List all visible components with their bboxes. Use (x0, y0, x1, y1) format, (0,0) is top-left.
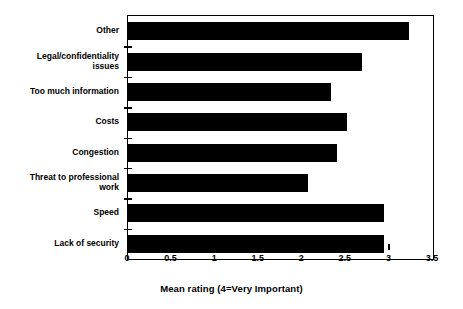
x-axis-tick-label: 0.5 (151, 253, 191, 263)
y-axis-tick-label: Threat to professional work (0, 172, 119, 192)
x-axis-tick-label: 3 (368, 253, 408, 263)
y-axis-tick (124, 168, 132, 169)
bar (128, 22, 409, 40)
bars-layer (128, 16, 433, 259)
x-axis-tick (258, 244, 259, 250)
x-axis-tick-label: 0 (107, 253, 147, 263)
y-axis-tick-label: Other (0, 25, 119, 35)
y-axis-tick-label: Too much information (0, 86, 119, 96)
x-axis-tick-label: 3.5 (412, 253, 452, 263)
y-axis-tick-label: Lack of security (0, 238, 119, 248)
bar (128, 53, 362, 71)
y-axis-tick (124, 107, 132, 108)
y-axis-tick-label: Legal/confidentiality issues (0, 51, 119, 71)
y-axis-category-labels: OtherLegal/confidentiality issuesToo muc… (0, 15, 123, 258)
x-axis-tick (301, 244, 302, 250)
y-axis-tick (124, 229, 132, 230)
x-axis-tick-label: 1 (194, 253, 234, 263)
x-axis-tick (171, 244, 172, 250)
x-axis-tick-label: 2.5 (325, 253, 365, 263)
y-axis-tick (124, 77, 132, 78)
x-axis-tick (388, 244, 389, 250)
x-axis-tick (345, 244, 346, 250)
bar (128, 83, 331, 101)
bar (128, 204, 384, 222)
y-axis-tick-label: Costs (0, 116, 119, 126)
bar (128, 144, 337, 162)
y-axis-tick (124, 46, 132, 47)
bar (128, 174, 308, 192)
y-axis-tick-label: Speed (0, 207, 119, 217)
x-axis-title: Mean rating (4=Very Important) (0, 283, 463, 294)
y-axis-tick-label: Congestion (0, 147, 119, 157)
x-axis-tick-label: 1.5 (238, 253, 278, 263)
plot-area (127, 15, 434, 260)
bar-chart: OtherLegal/confidentiality issuesToo muc… (0, 0, 463, 309)
y-axis-tick (124, 198, 132, 199)
x-axis-tick-label: 2 (281, 253, 321, 263)
bar (128, 113, 347, 131)
y-axis-tick (124, 138, 132, 139)
x-axis-tick (214, 244, 215, 250)
